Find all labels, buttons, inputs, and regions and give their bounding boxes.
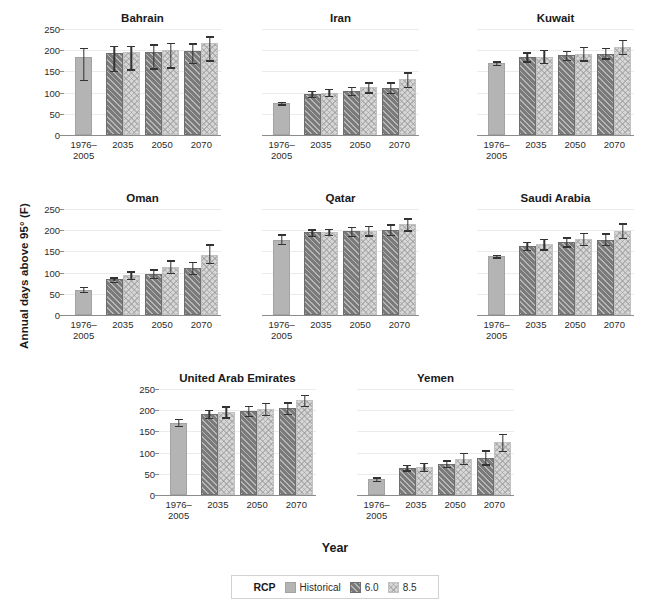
bar-historical[interactable] bbox=[273, 240, 290, 315]
error-bar-cap bbox=[127, 279, 135, 280]
bar-slot bbox=[106, 209, 123, 315]
bar-rcp60[interactable] bbox=[597, 54, 614, 135]
bar-rcp60[interactable] bbox=[304, 232, 321, 315]
error-bar bbox=[209, 244, 210, 263]
panel-iran: Iran0501001502002501976–2005203520502070 bbox=[258, 12, 441, 161]
y-tick-label: 250 bbox=[44, 25, 60, 34]
x-axis-title: Year bbox=[0, 541, 670, 555]
bar-historical[interactable] bbox=[170, 423, 187, 496]
bar-groups bbox=[64, 29, 221, 135]
bar-rcp85[interactable] bbox=[218, 412, 235, 495]
error-bar-cap bbox=[523, 61, 531, 62]
legend-title: RCP bbox=[253, 581, 275, 593]
bar-group bbox=[341, 209, 380, 315]
bar-historical[interactable] bbox=[488, 256, 505, 315]
bar-slot bbox=[218, 389, 235, 495]
error-bar bbox=[114, 46, 115, 71]
bar-rcp85[interactable] bbox=[575, 54, 592, 135]
bar-rcp85[interactable] bbox=[360, 231, 377, 315]
x-tick-label: 1976–2005 bbox=[477, 319, 516, 341]
bar-rcp60[interactable] bbox=[382, 88, 399, 135]
bar-rcp85[interactable] bbox=[123, 275, 140, 315]
error-bar-cap bbox=[325, 229, 333, 230]
bar-slot bbox=[240, 389, 257, 495]
y-tick-label: 100 bbox=[44, 268, 60, 277]
error-bar-cap bbox=[110, 46, 118, 47]
bar-rcp85[interactable] bbox=[575, 239, 592, 315]
bar-rcp60[interactable] bbox=[382, 230, 399, 315]
bar-rcp60[interactable] bbox=[184, 268, 201, 315]
bar-slot bbox=[614, 209, 631, 315]
bar-historical[interactable] bbox=[488, 63, 505, 135]
bar-rcp85[interactable] bbox=[536, 57, 553, 135]
error-bar-cap bbox=[482, 464, 490, 465]
bar-rcp60[interactable] bbox=[343, 231, 360, 315]
bar-rcp60[interactable] bbox=[597, 240, 614, 315]
bar-rcp85[interactable] bbox=[614, 231, 631, 315]
chart-figure: Annual days above 95° (F) Bahrain0501001… bbox=[0, 0, 670, 605]
x-tick-label: 2050 bbox=[238, 499, 277, 521]
bar-slot bbox=[360, 29, 377, 135]
error-bar-cap bbox=[580, 233, 588, 234]
bar-group bbox=[143, 209, 182, 315]
error-bar bbox=[248, 406, 249, 416]
bar-rcp85[interactable] bbox=[257, 409, 274, 495]
bar-slot bbox=[519, 29, 536, 135]
error-bar bbox=[622, 223, 623, 237]
x-tick-label: 1976–2005 bbox=[262, 319, 301, 341]
error-bar-cap bbox=[493, 65, 501, 66]
bar-rcp60[interactable] bbox=[438, 464, 455, 495]
error-bar-cap bbox=[127, 69, 135, 70]
bar-rcp60[interactable] bbox=[519, 246, 536, 315]
x-tick-label: 2070 bbox=[595, 319, 634, 341]
bar-rcp85[interactable] bbox=[614, 47, 631, 135]
bar-rcp85[interactable] bbox=[399, 224, 416, 315]
y-tick-label: 250 bbox=[44, 205, 60, 214]
bar-rcp85[interactable] bbox=[321, 232, 338, 315]
bar-rcp85[interactable] bbox=[360, 87, 377, 135]
bar-group bbox=[301, 29, 340, 135]
error-bar-cap bbox=[80, 287, 88, 288]
bar-rcp60[interactable] bbox=[106, 279, 123, 315]
bar-rcp85[interactable] bbox=[321, 93, 338, 135]
bar-rcp60[interactable] bbox=[519, 57, 536, 135]
y-tick-label: 200 bbox=[44, 226, 60, 235]
bar-rcp60[interactable] bbox=[240, 411, 257, 495]
bar-slot bbox=[162, 209, 179, 315]
bar-slot bbox=[201, 29, 218, 135]
bar-rcp60[interactable] bbox=[145, 274, 162, 315]
error-bar bbox=[583, 233, 584, 245]
error-bar-cap bbox=[365, 226, 373, 227]
bar-rcp60[interactable] bbox=[304, 94, 321, 135]
bar-rcp60[interactable] bbox=[558, 55, 575, 135]
bar-rcp60[interactable] bbox=[279, 408, 296, 495]
bar-slot bbox=[321, 209, 338, 315]
bar-rcp60[interactable] bbox=[558, 242, 575, 315]
error-bar-cap bbox=[308, 91, 316, 92]
error-bar-cap bbox=[348, 236, 356, 237]
bar-rcp85[interactable] bbox=[536, 244, 553, 315]
error-bar-cap bbox=[150, 44, 158, 45]
bar-rcp60[interactable] bbox=[343, 91, 360, 135]
error-bar-cap bbox=[325, 89, 333, 90]
bar-rcp85[interactable] bbox=[296, 400, 313, 495]
error-bar-cap bbox=[373, 481, 381, 482]
bar-historical[interactable] bbox=[273, 103, 290, 135]
bar-rcp60[interactable] bbox=[201, 414, 218, 495]
y-axis-title: Annual days above 95° (F) bbox=[18, 166, 30, 386]
bar-slot bbox=[273, 29, 290, 135]
error-bar bbox=[502, 434, 503, 451]
bar-rcp60[interactable] bbox=[399, 468, 416, 495]
x-tick-label: 2070 bbox=[380, 139, 419, 161]
error-bar bbox=[226, 406, 227, 417]
x-tick-label: 2035 bbox=[516, 319, 555, 341]
error-bar-cap bbox=[245, 416, 253, 417]
error-bar-cap bbox=[301, 406, 309, 407]
error-bar-cap bbox=[540, 50, 548, 51]
bar-groups bbox=[262, 209, 419, 315]
error-bar-cap bbox=[245, 406, 253, 407]
error-bar-cap bbox=[301, 395, 309, 396]
legend-item-rcp85: 8.5 bbox=[388, 582, 417, 593]
x-tick-label: 2070 bbox=[595, 139, 634, 161]
error-bar-cap bbox=[443, 467, 451, 468]
